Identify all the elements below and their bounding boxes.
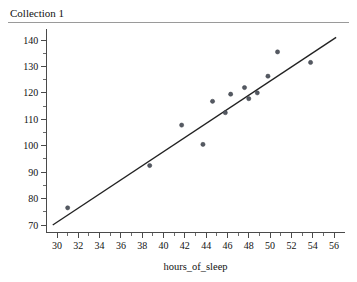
regression-line: [53, 37, 336, 225]
data-point: [266, 74, 270, 78]
y-tick-label: 130: [23, 61, 38, 72]
plot-svg: 3032343638404244464850525456 70809010011…: [0, 0, 357, 282]
x-tick-label: 50: [265, 240, 275, 251]
x-tick-label: 48: [244, 240, 254, 251]
x-tick-label: 42: [180, 240, 190, 251]
data-point: [210, 99, 214, 103]
data-point: [275, 50, 279, 54]
x-tick-label: 44: [201, 240, 211, 251]
x-axis-title: hours_of_sleep: [163, 261, 227, 272]
y-axis-tick-labels: 708090100110120130140: [23, 35, 38, 231]
y-tick-label: 140: [23, 35, 38, 46]
x-tick-label: 40: [159, 240, 169, 251]
scatter-plot: 3032343638404244464850525456 70809010011…: [0, 0, 357, 282]
data-point: [66, 206, 70, 210]
x-tick-label: 46: [222, 240, 232, 251]
y-tick-label: 70: [28, 220, 38, 231]
y-tick-label: 110: [24, 114, 39, 125]
y-tick-label: 90: [28, 167, 38, 178]
data-point: [247, 97, 251, 101]
x-tick-label: 54: [308, 240, 318, 251]
y-tick-label: 100: [23, 140, 38, 151]
x-tick-label: 56: [329, 240, 339, 251]
data-point: [223, 111, 227, 115]
y-tick-label: 120: [23, 87, 38, 98]
data-point: [308, 60, 312, 64]
data-point: [242, 85, 246, 89]
data-point: [201, 142, 205, 146]
data-points: [66, 50, 313, 210]
data-point: [229, 92, 233, 96]
data-point: [255, 91, 259, 95]
x-tick-label: 32: [73, 240, 83, 251]
x-tick-label: 34: [95, 240, 105, 251]
chart-window: Collection 1 303234363840424446485052545…: [0, 0, 357, 282]
x-tick-label: 30: [52, 240, 62, 251]
x-tick-label: 36: [116, 240, 126, 251]
x-axis-tick-labels: 3032343638404244464850525456: [52, 240, 339, 251]
x-tick-label: 38: [137, 240, 147, 251]
data-point: [180, 123, 184, 127]
data-point: [148, 163, 152, 167]
x-tick-label: 52: [286, 240, 296, 251]
y-tick-label: 80: [28, 193, 38, 204]
